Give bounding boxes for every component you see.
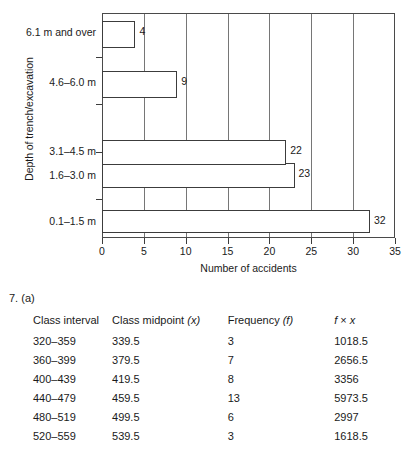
bar-chart-figure: Depth of trench/excavation 0.1–1.5 m1.6–… [0, 0, 414, 285]
gridline-25 [311, 14, 312, 237]
table-body: 320–359339.531018.5360–399379.572656.540… [33, 335, 408, 449]
cell-frequency: 3 [228, 430, 335, 449]
header-f-times-x: f × x [334, 314, 408, 335]
bar-2 [102, 140, 286, 165]
y-minor-tick-1 [96, 104, 102, 105]
gridline-20 [269, 14, 270, 237]
header-fx-operator: × [337, 314, 350, 326]
x-tick-label-20: 20 [254, 245, 284, 257]
table-row: 440–479459.5135973.5 [33, 392, 408, 411]
cell-frequency: 8 [228, 373, 335, 392]
bar-value-label-4: 4 [139, 25, 145, 37]
gridline-10 [186, 14, 187, 237]
cell-frequency: 7 [228, 354, 335, 373]
cell-class-midpoint: 339.5 [112, 335, 228, 354]
cell-class-midpoint: 459.5 [112, 392, 228, 411]
gridline-5 [144, 14, 145, 237]
bar-3 [102, 71, 177, 98]
x-axis-title: Number of accidents [102, 262, 395, 274]
cell-f-times-x: 5973.5 [334, 392, 408, 411]
cell-class-interval: 520–559 [33, 430, 112, 449]
table-row: 320–359339.531018.5 [33, 335, 408, 354]
bar-value-label-3: 9 [181, 75, 187, 87]
bar-1 [102, 163, 295, 188]
bar-4 [102, 21, 135, 48]
x-tick-label-10: 10 [171, 245, 201, 257]
cell-f-times-x: 2656.5 [334, 354, 408, 373]
header-class-midpoint: Class midpoint (x) [112, 314, 228, 335]
x-tick-15 [228, 238, 229, 244]
header-class-midpoint-text: Class midpoint [112, 314, 187, 326]
table-header-row: Class interval Class midpoint (x) Freque… [33, 314, 408, 335]
cell-frequency: 13 [228, 392, 335, 411]
cell-class-midpoint: 419.5 [112, 373, 228, 392]
frequency-table: Class interval Class midpoint (x) Freque… [33, 314, 408, 449]
x-tick-30 [353, 238, 354, 244]
header-class-interval: Class interval [33, 314, 112, 335]
cell-class-interval: 440–479 [33, 392, 112, 411]
cell-class-interval: 480–519 [33, 411, 112, 430]
x-tick-20 [269, 238, 270, 244]
y-category-label-0: 0.1–1.5 m [0, 215, 96, 227]
gridline-30 [353, 14, 354, 237]
y-category-label-4: 6.1 m and over [0, 26, 96, 38]
bar-value-label-1: 23 [299, 167, 311, 179]
cell-class-midpoint: 499.5 [112, 411, 228, 430]
table-row: 360–399379.572656.5 [33, 354, 408, 373]
cell-f-times-x: 1018.5 [334, 335, 408, 354]
x-tick-10 [186, 238, 187, 244]
header-frequency: Frequency (f) [228, 314, 335, 335]
y-category-label-2: 3.1–4.5 m [0, 145, 96, 157]
y-category-label-1: 1.6–3.0 m [0, 169, 96, 181]
x-tick-label-25: 25 [296, 245, 326, 257]
gridline-15 [228, 14, 229, 237]
header-fx-var-x: x [350, 314, 356, 326]
cell-f-times-x: 1618.5 [334, 430, 408, 449]
x-tick-label-5: 5 [129, 245, 159, 257]
table-row: 480–519499.562997 [33, 411, 408, 430]
plot-area [102, 13, 395, 238]
question-number: 7. (a) [9, 292, 35, 304]
cell-class-midpoint: 539.5 [112, 430, 228, 449]
cell-class-interval: 320–359 [33, 335, 112, 354]
cell-f-times-x: 2997 [334, 411, 408, 430]
y-category-label-3: 4.6–6.0 m [0, 76, 96, 88]
cell-frequency: 6 [228, 411, 335, 430]
y-axis-title: Depth of trench/excavation [23, 14, 35, 224]
cell-frequency: 3 [228, 335, 335, 354]
x-tick-label-15: 15 [213, 245, 243, 257]
header-class-midpoint-var: (x) [187, 314, 200, 326]
header-frequency-text: Frequency [228, 314, 283, 326]
x-tick-0 [102, 238, 103, 244]
x-tick-label-35: 35 [380, 245, 410, 257]
bar-0 [102, 210, 370, 233]
bar-value-label-2: 22 [290, 144, 302, 156]
y-minor-tick-0 [96, 57, 102, 58]
x-tick-25 [311, 238, 312, 244]
bar-value-label-0: 32 [374, 214, 386, 226]
x-tick-5 [144, 238, 145, 244]
cell-class-midpoint: 379.5 [112, 354, 228, 373]
x-tick-35 [395, 238, 396, 244]
x-tick-label-30: 30 [338, 245, 368, 257]
cell-class-interval: 360–399 [33, 354, 112, 373]
table-row: 400–439419.583356 [33, 373, 408, 392]
cell-class-interval: 400–439 [33, 373, 112, 392]
table-row: 520–559539.531618.5 [33, 430, 408, 449]
header-frequency-var: (f) [283, 314, 293, 326]
x-tick-label-0: 0 [87, 245, 117, 257]
y-minor-tick-3 [96, 199, 102, 200]
cell-f-times-x: 3356 [334, 373, 408, 392]
